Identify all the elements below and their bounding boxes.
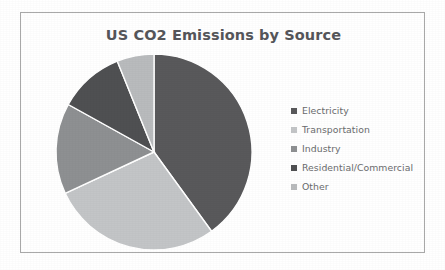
legend-item-label: Transportation <box>302 124 370 135</box>
legend-item-transportation[interactable]: Transportation <box>291 120 426 139</box>
chart-frame: US CO2 Emissions by Source ElectricityTr… <box>20 12 425 253</box>
legend-swatch-icon <box>291 184 297 190</box>
legend-item-residential-commercial[interactable]: Residential/Commercial <box>291 158 426 177</box>
legend-swatch-icon <box>291 146 297 152</box>
page-root: US CO2 Emissions by Source ElectricityTr… <box>0 0 445 270</box>
legend-item-other[interactable]: Other <box>291 177 426 196</box>
legend-swatch-icon <box>291 127 297 133</box>
chart-title: US CO2 Emissions by Source <box>21 27 426 43</box>
legend-item-label: Industry <box>302 143 341 154</box>
legend-item-industry[interactable]: Industry <box>291 139 426 158</box>
legend-item-electricity[interactable]: Electricity <box>291 101 426 120</box>
pie-slice-group <box>56 54 252 250</box>
pie-chart-svg <box>54 52 254 252</box>
legend-item-label: Residential/Commercial <box>302 162 413 173</box>
pie-chart <box>54 52 254 252</box>
chart-legend: ElectricityTransportationIndustryResiden… <box>291 101 426 196</box>
legend-swatch-icon <box>291 165 297 171</box>
legend-item-label: Other <box>302 181 329 192</box>
legend-item-label: Electricity <box>302 105 349 116</box>
legend-swatch-icon <box>291 108 297 114</box>
